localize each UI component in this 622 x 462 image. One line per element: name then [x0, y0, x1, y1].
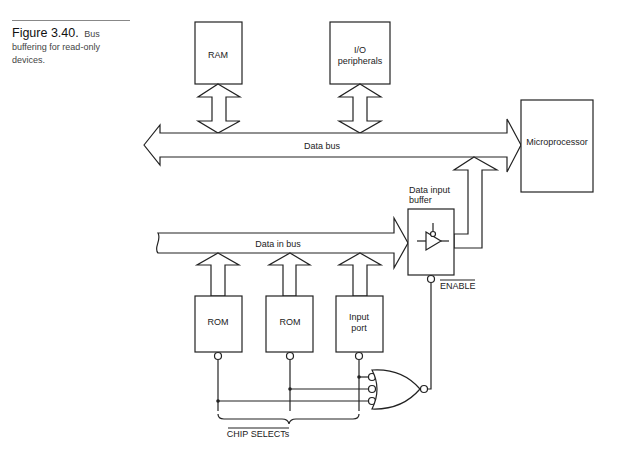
- io-bidirectional-arrow: [339, 84, 381, 133]
- rom-block-1: ROM: [195, 296, 242, 360]
- input-port-output-arrow: [339, 253, 381, 296]
- input-port-label-line1: Input: [349, 312, 370, 322]
- rom-block-2: ROM: [266, 296, 313, 360]
- bus-buffering-diagram: RAM I/O peripherals Data bus Microproces…: [0, 0, 622, 462]
- data-bus-label: Data bus: [304, 141, 341, 151]
- data-in-bus-label: Data in bus: [255, 239, 301, 249]
- buffer-label-line1: Data input: [409, 185, 451, 195]
- chip-select-wiring: [216, 360, 368, 411]
- microprocessor-label: Microprocessor: [526, 137, 588, 147]
- chip-selects-label: CHIP SELECTs: [227, 429, 290, 439]
- enable-bubble: [428, 276, 435, 283]
- input-port-block: Input port: [336, 296, 383, 360]
- input-port-label-line2: port: [351, 323, 367, 333]
- io-peripherals-block: I/O peripherals: [330, 22, 390, 84]
- io-label-line2: peripherals: [338, 56, 383, 66]
- rom1-label: ROM: [208, 317, 229, 327]
- rom1-output-arrow: [197, 253, 239, 296]
- microprocessor-block: Microprocessor: [521, 100, 593, 192]
- data-input-buffer: [408, 209, 454, 283]
- ram-bidirectional-arrow: [198, 84, 240, 133]
- buffer-output-arrow: [454, 157, 497, 248]
- io-label-line1: I/O: [354, 45, 366, 55]
- enable-label: ENABLE: [440, 281, 476, 291]
- chip-selects-brace: [218, 414, 359, 424]
- ram-block: RAM: [195, 22, 242, 84]
- rom2-output-arrow: [269, 253, 310, 296]
- rom2-label: ROM: [280, 317, 301, 327]
- buffer-label-line2: buffer: [409, 195, 432, 205]
- ram-label: RAM: [208, 50, 228, 60]
